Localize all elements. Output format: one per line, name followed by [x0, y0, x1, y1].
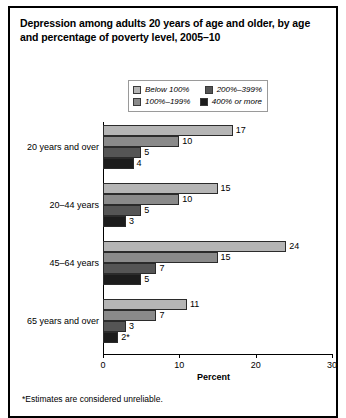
y-axis-category-label: 20–44 years [49, 200, 99, 210]
y-axis-category-label: 20 years and over [27, 142, 99, 152]
y-axis-category-label: 45–64 years [49, 258, 99, 268]
bar-value-label: 5 [144, 274, 149, 285]
bar-value-label: 10 [182, 194, 192, 205]
legend-label: 200%–399% [217, 85, 262, 95]
bar [103, 241, 286, 252]
bar [103, 299, 187, 310]
legend-row: Below 100% 200%–399% [133, 84, 262, 96]
chart-footnote: *Estimates are considered unreliable. [22, 394, 163, 404]
bar [103, 136, 179, 147]
bar-value-label: 10 [182, 136, 192, 147]
bar [103, 252, 218, 263]
bar [103, 183, 218, 194]
bar [103, 321, 126, 332]
x-axis-tick [103, 354, 104, 358]
bar-value-label: 3 [129, 216, 134, 227]
bar-value-label: 7 [159, 263, 164, 274]
legend-item-200-399: 200%–399% [205, 85, 262, 95]
chart-legend: Below 100% 200%–399% 100%–199% 400% or m… [128, 80, 268, 112]
x-axis-tick-label: 20 [251, 360, 261, 370]
legend-swatch-icon [133, 98, 141, 106]
bar-value-label: 15 [221, 252, 231, 263]
plot-area: 010203020 years and over17105420–44 year… [95, 122, 332, 354]
chart-title: Depression among adults 20 years of age … [20, 17, 326, 44]
legend-row: 100%–199% 400% or more [133, 96, 262, 108]
x-axis-tick [332, 354, 333, 358]
legend-label: Below 100% [145, 85, 189, 95]
figure-panel: Depression among adults 20 years of age … [8, 6, 338, 418]
x-axis-tick [256, 354, 257, 358]
x-axis-title: Percent [95, 372, 332, 382]
y-axis-category-label: 65 years and over [27, 316, 99, 326]
bar [103, 263, 156, 274]
bar-value-label: 5 [144, 147, 149, 158]
x-axis-tick [179, 354, 180, 358]
bar [103, 147, 141, 158]
legend-item-100-199: 100%–199% [133, 97, 200, 107]
bar-value-label: 15 [221, 183, 231, 194]
x-axis-tick-label: 10 [174, 360, 184, 370]
legend-label: 400% or more [212, 97, 262, 107]
legend-swatch-icon [133, 86, 141, 94]
x-axis-tick-label: 30 [327, 360, 337, 370]
bar-value-label: 4 [137, 158, 142, 169]
legend-swatch-icon [205, 86, 213, 94]
bar-value-label: 17 [236, 125, 246, 136]
bar [103, 310, 156, 321]
bar-value-label: 2* [121, 332, 130, 343]
legend-item-400-or-more: 400% or more [200, 97, 262, 107]
bar [103, 125, 233, 136]
bar [103, 216, 126, 227]
legend-label: 100%–199% [145, 97, 190, 107]
bar-value-label: 11 [190, 299, 199, 310]
legend-item-below-100: Below 100% [133, 85, 205, 95]
bar-value-label: 24 [289, 241, 299, 252]
bar [103, 332, 118, 343]
x-axis-tick-label: 0 [100, 360, 105, 370]
x-axis-line [103, 354, 332, 355]
bar [103, 205, 141, 216]
bar [103, 274, 141, 285]
bar-value-label: 7 [159, 310, 164, 321]
bar-value-label: 3 [129, 321, 134, 332]
legend-swatch-icon [200, 98, 208, 106]
bar [103, 158, 134, 169]
bar-value-label: 5 [144, 205, 149, 216]
bar [103, 194, 179, 205]
